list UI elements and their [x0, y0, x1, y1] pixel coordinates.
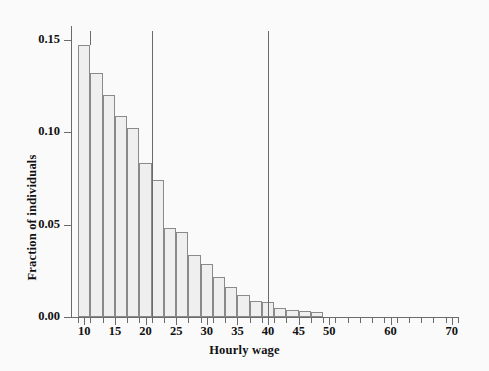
- x-axis-tick-label: 35: [222, 324, 252, 339]
- x-axis-tick-label: 25: [161, 324, 191, 339]
- x-axis-minor-tick: [139, 318, 140, 323]
- x-axis-minor-tick: [372, 318, 373, 323]
- x-axis-tick-label: 50: [314, 324, 344, 339]
- histogram-bar: [78, 45, 90, 317]
- histogram-bar: [237, 295, 249, 317]
- x-axis-minor-tick: [188, 318, 189, 323]
- histogram-bar: [127, 128, 139, 317]
- y-axis-title-container: Fraction of individuals: [10, 60, 34, 290]
- reference-line-left: [152, 31, 153, 317]
- y-axis-tick: [64, 40, 72, 41]
- x-axis-minor-tick: [335, 318, 336, 323]
- x-axis-minor-tick: [421, 318, 422, 323]
- histogram-bar: [250, 301, 262, 317]
- x-axis-minor-tick: [164, 318, 165, 323]
- x-axis-minor-tick: [103, 318, 104, 323]
- x-axis-minor-tick: [433, 318, 434, 323]
- histogram-bar: [90, 73, 102, 317]
- y-axis-tick: [64, 132, 72, 133]
- x-axis-minor-tick: [311, 318, 312, 323]
- x-axis-minor-tick: [262, 318, 263, 323]
- histogram-bar: [152, 180, 164, 317]
- histogram-bar: [164, 228, 176, 317]
- x-axis-minor-tick: [201, 318, 202, 323]
- x-axis-tick-label: 60: [376, 324, 406, 339]
- x-axis-minor-tick: [90, 318, 91, 323]
- x-axis-tick-label: 15: [100, 324, 130, 339]
- histogram-bar: [139, 163, 151, 317]
- x-axis-minor-tick: [348, 318, 349, 323]
- y-axis-tick: [64, 225, 72, 226]
- x-axis-minor-tick: [127, 318, 128, 323]
- histogram-bar: [311, 312, 323, 317]
- x-axis-tick-label: 30: [192, 324, 222, 339]
- x-axis-minor-tick: [323, 318, 324, 323]
- histogram-bar: [115, 116, 127, 317]
- x-axis-minor-tick: [384, 318, 385, 323]
- histogram-bar: [213, 277, 225, 317]
- x-axis-minor-tick: [152, 318, 153, 323]
- histogram-bar: [188, 255, 200, 317]
- x-axis-minor-tick: [397, 318, 398, 323]
- x-axis-minor-tick: [213, 318, 214, 323]
- x-axis-minor-tick: [286, 318, 287, 323]
- histogram-bar: [176, 232, 188, 317]
- x-axis-minor-tick: [250, 318, 251, 323]
- x-axis-tick-label: 45: [284, 324, 314, 339]
- x-axis-tick-label: 40: [253, 324, 283, 339]
- y-axis-tick-label: 0.10: [2, 124, 60, 139]
- x-axis-tick-label: 20: [131, 324, 161, 339]
- histogram-bar: [103, 95, 115, 317]
- peak-marker: [90, 31, 91, 45]
- x-axis-minor-tick: [274, 318, 275, 323]
- histogram-bar: [201, 264, 213, 318]
- x-axis-minor-tick: [458, 318, 459, 323]
- x-axis-tick-label: 10: [69, 324, 99, 339]
- y-axis-tick-label: 0.15: [2, 32, 60, 47]
- x-axis-minor-tick: [446, 318, 447, 323]
- x-axis-minor-tick: [225, 318, 226, 323]
- x-axis-minor-tick: [78, 318, 79, 323]
- y-axis-tick: [64, 317, 72, 318]
- x-axis-minor-tick: [360, 318, 361, 323]
- histogram-bar: [299, 311, 311, 317]
- histogram-bar: [286, 310, 298, 317]
- x-axis-line: [71, 317, 459, 318]
- x-axis-minor-tick: [409, 318, 410, 323]
- histogram-bar: [225, 287, 237, 317]
- histogram-bar: [274, 308, 286, 317]
- y-axis-tick-label: 0.00: [2, 309, 60, 324]
- x-axis-tick-label: 70: [437, 324, 467, 339]
- histogram-figure: Fraction of individuals 0.000.050.100.15…: [0, 0, 489, 371]
- reference-line-right: [268, 31, 269, 317]
- x-axis-title: Hourly wage: [0, 343, 489, 358]
- y-axis-tick-label: 0.05: [2, 217, 60, 232]
- plot-area: [72, 31, 458, 317]
